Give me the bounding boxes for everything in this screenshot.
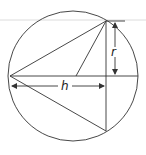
diagram-canvas: r h (0, 0, 146, 155)
cone-in-sphere-diagram: r h (0, 0, 146, 155)
r-label: r (111, 45, 117, 59)
cone-upper-slant (10, 21, 106, 76)
cone-lower-slant (10, 76, 106, 131)
h-label: h (61, 79, 69, 93)
